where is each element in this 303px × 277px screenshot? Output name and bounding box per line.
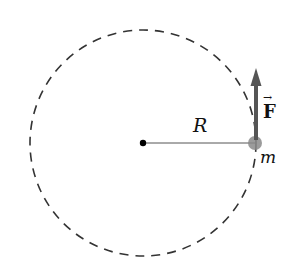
mass-label: m bbox=[260, 147, 276, 167]
center-point bbox=[140, 140, 146, 146]
circular-motion-diagram: R m F → bbox=[0, 0, 303, 277]
force-vector-mark: → bbox=[263, 91, 272, 104]
radius-label: R bbox=[192, 114, 207, 136]
force-label: F bbox=[263, 101, 276, 122]
force-arrow-head bbox=[251, 68, 262, 86]
